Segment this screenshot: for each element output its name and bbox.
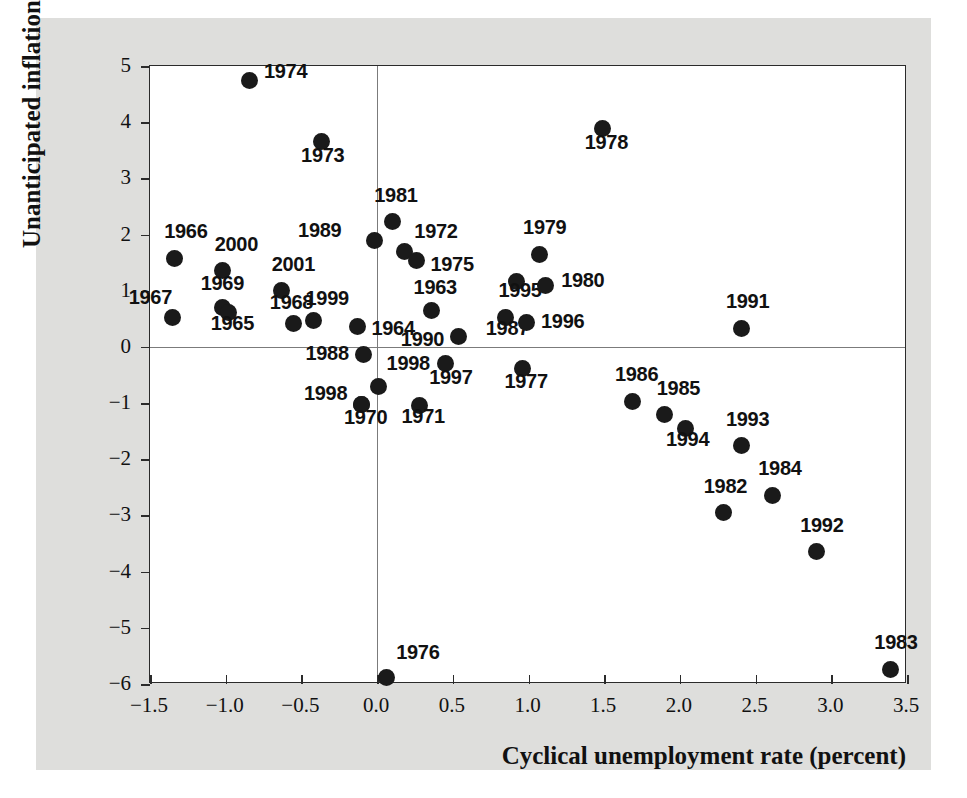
y-tick-label: 0 <box>121 333 132 358</box>
data-point-label: 1972 <box>414 220 457 243</box>
data-point-label: 1999 <box>306 287 349 310</box>
data-point-label: 1975 <box>430 253 473 276</box>
data-point <box>733 320 750 337</box>
data-point-label: 1973 <box>301 144 344 167</box>
zero-horizontal-line <box>150 347 905 348</box>
x-tick-label: 3.0 <box>817 693 843 718</box>
data-point-label: 1988 <box>305 342 348 365</box>
x-tick-label: 1.0 <box>514 693 540 718</box>
data-point <box>715 504 732 521</box>
y-tick <box>141 403 150 405</box>
data-point <box>384 213 401 230</box>
data-point-label: 1980 <box>561 269 604 292</box>
x-tick <box>453 675 455 684</box>
data-point-label: 1977 <box>504 370 547 393</box>
data-point-label: 1963 <box>414 276 457 299</box>
data-point <box>423 302 440 319</box>
data-point <box>378 669 395 686</box>
data-point-label: 1986 <box>615 363 658 386</box>
data-point-label: 1970 <box>344 406 387 429</box>
data-point-label: 2000 <box>215 233 258 256</box>
data-point <box>450 328 467 345</box>
data-point <box>349 318 366 335</box>
data-point <box>408 252 425 269</box>
data-point-label: 1994 <box>666 428 709 451</box>
x-tick <box>680 675 682 684</box>
data-point-label: 1965 <box>211 312 254 335</box>
x-tick <box>226 675 228 684</box>
y-tick <box>141 459 150 461</box>
data-point-label: 1969 <box>201 272 244 295</box>
x-tick <box>604 675 606 684</box>
data-point <box>241 72 258 89</box>
data-point-label: 1981 <box>374 184 417 207</box>
data-point-label: 1992 <box>800 514 843 537</box>
x-tick-label: 2.5 <box>741 693 767 718</box>
data-point-label: 1998 <box>304 382 347 405</box>
data-point <box>166 250 183 267</box>
y-tick <box>141 235 150 237</box>
data-point-label: 1966 <box>164 220 207 243</box>
data-point <box>518 314 535 331</box>
y-tick <box>141 628 150 630</box>
data-point <box>366 232 383 249</box>
x-tick-label: 0.0 <box>363 693 389 718</box>
data-point-label: 1978 <box>585 131 628 154</box>
data-point-label: 2001 <box>272 253 315 276</box>
data-point-label: 1998 <box>387 352 430 375</box>
y-tick-label: −2 <box>109 446 131 471</box>
x-tick <box>301 675 303 684</box>
x-tick <box>150 675 152 684</box>
x-axis-title: Cyclical unemployment rate (percent) <box>502 742 906 770</box>
data-point-label: 1996 <box>541 310 584 333</box>
data-point-label: 1976 <box>396 641 439 664</box>
x-tick-label: 3.5 <box>893 693 919 718</box>
data-point-label: 1983 <box>874 631 917 654</box>
x-tick <box>529 675 531 684</box>
y-tick-label: −4 <box>109 558 131 583</box>
zero-vertical-line <box>377 66 378 682</box>
y-tick <box>141 684 150 686</box>
data-point-label: 1985 <box>657 377 700 400</box>
y-tick-label: −1 <box>109 390 131 415</box>
x-tick-label: −0.5 <box>281 693 319 718</box>
data-point <box>733 437 750 454</box>
y-tick <box>141 515 150 517</box>
data-point-label: 1990 <box>401 328 444 351</box>
y-tick-label: −6 <box>109 671 131 696</box>
x-tick-label: 2.0 <box>666 693 692 718</box>
data-point <box>305 312 322 329</box>
x-tick-label: −1.0 <box>206 693 244 718</box>
x-tick-label: 0.5 <box>439 693 465 718</box>
data-point <box>370 378 387 395</box>
data-point <box>164 309 181 326</box>
x-tick <box>756 675 758 684</box>
y-tick <box>141 178 150 180</box>
data-point <box>537 277 554 294</box>
y-tick-label: 3 <box>121 165 132 190</box>
y-tick <box>141 66 150 68</box>
y-tick-label: 4 <box>121 109 132 134</box>
data-point-label: 1997 <box>429 366 472 389</box>
y-tick <box>141 347 150 349</box>
scatter-plot: 1974197319781981198919721975197919662000… <box>0 0 967 798</box>
x-tick-label: 1.5 <box>590 693 616 718</box>
y-tick-label: −5 <box>109 614 131 639</box>
data-point <box>624 393 641 410</box>
y-tick-label: 5 <box>121 53 132 78</box>
y-tick-label: 1 <box>121 277 132 302</box>
x-tick <box>831 675 833 684</box>
y-tick <box>141 122 150 124</box>
data-point <box>355 346 372 363</box>
data-point-label: 1989 <box>298 219 341 242</box>
data-point <box>882 661 899 678</box>
data-point-label: 1993 <box>726 408 769 431</box>
data-point-label: 1995 <box>498 279 541 302</box>
figure-page: 1974197319781981198919721975197919662000… <box>0 0 967 798</box>
data-point-label: 1974 <box>264 60 307 83</box>
x-tick <box>907 675 909 684</box>
data-point-label: 1971 <box>401 405 444 428</box>
y-axis-title: Unanticipated inflation <box>18 0 46 248</box>
data-point-label: 1979 <box>523 216 566 239</box>
data-point-label: 1982 <box>704 475 747 498</box>
